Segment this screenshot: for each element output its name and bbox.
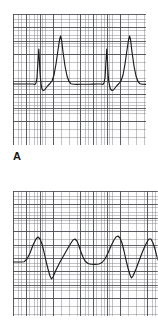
ecg-figure: A (0, 0, 158, 320)
panel-label-a: A (13, 150, 21, 162)
ecg-panel-a (13, 14, 146, 145)
ecg-trace-panel-a (13, 14, 146, 145)
ecg-trace-panel-b (13, 191, 158, 316)
ecg-panel-b (13, 191, 158, 316)
ecg-waveform-path-a (13, 36, 146, 91)
ecg-waveform-path-b (13, 236, 158, 279)
